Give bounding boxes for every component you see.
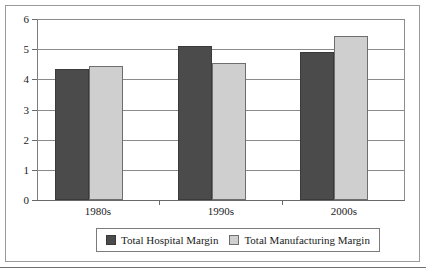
legend-label-manufacturing: Total Manufacturing Margin [244,235,370,246]
legend-swatch-icon-hospital [106,235,116,245]
y-tick-label-1: 1 [13,165,29,176]
bar-1980s-series0 [55,69,89,200]
chart-figure: 6 5 4 3 2 1 0 1980s 1990s 2000s Total Ho… [0,0,426,277]
chart-legend: Total Hospital Margin Total Manufacturin… [96,228,380,252]
legend-entry-manufacturing: Total Manufacturing Margin [229,235,370,246]
legend-label-hospital: Total Hospital Margin [121,235,218,246]
gridline-0 [37,200,405,201]
bar-1990s-series1 [212,63,246,200]
plot-area: 6 5 4 3 2 1 0 1980s 1990s 2000s [37,19,405,200]
footer-rule [0,267,426,268]
y-tick-label-4: 4 [13,74,29,85]
y-tick-label-3: 3 [13,105,29,116]
x-tick-1 [159,200,160,205]
y-tick-label-5: 5 [13,44,29,55]
y-tick-4 [32,79,37,80]
legend-swatch-icon-manufacturing [229,235,239,245]
y-tick-6 [32,19,37,20]
y-tick-3 [32,110,37,111]
bar-1990s-series0 [178,46,212,200]
bar-2000s-series1 [334,36,368,200]
y-tick-0 [32,200,37,201]
y-tick-2 [32,140,37,141]
legend-entry-hospital: Total Hospital Margin [106,235,218,246]
x-label-2000s: 2000s [299,206,389,217]
bar-1980s-series1 [89,66,123,200]
x-label-1990s: 1990s [176,206,266,217]
y-tick-label-2: 2 [13,135,29,146]
x-tick-2 [282,200,283,205]
x-label-1980s: 1980s [53,206,143,217]
y-tick-label-6: 6 [13,14,29,25]
gridline-6 [37,19,405,20]
y-tick-5 [32,49,37,50]
y-tick-1 [32,170,37,171]
y-tick-label-0: 0 [13,195,29,206]
bar-2000s-series0 [300,52,334,200]
